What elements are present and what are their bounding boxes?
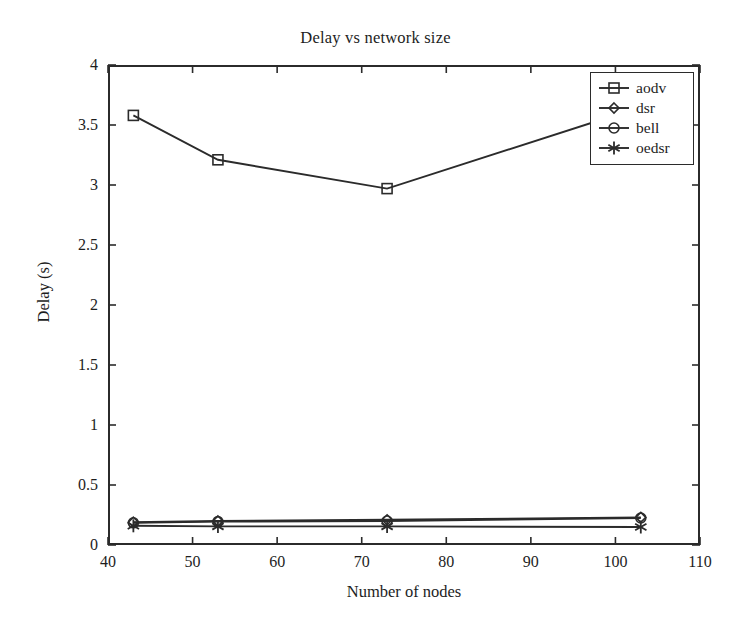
legend-label: bell bbox=[631, 120, 659, 136]
chart-legend: aodvdsrbelloedsr bbox=[590, 72, 694, 165]
x-axis-tick-labels: 405060708090100110 bbox=[108, 553, 700, 577]
x-tick-label: 110 bbox=[688, 553, 711, 571]
chart-title: Delay vs network size bbox=[0, 28, 751, 48]
y-tick-label: 2 bbox=[90, 296, 98, 314]
legend-marker-diamond-icon bbox=[597, 99, 631, 117]
legend-item-dsr[interactable]: dsr bbox=[597, 98, 687, 118]
legend-item-oedsr[interactable]: oedsr bbox=[597, 138, 687, 158]
legend-item-aodv[interactable]: aodv bbox=[597, 78, 687, 98]
y-tick-label: 0.5 bbox=[78, 476, 98, 494]
x-tick-label: 90 bbox=[523, 553, 539, 571]
legend-label: aodv bbox=[631, 80, 666, 96]
y-tick-label: 0 bbox=[90, 536, 98, 554]
x-tick-label: 40 bbox=[100, 553, 116, 571]
y-tick-label: 1 bbox=[90, 416, 98, 434]
x-tick-label: 70 bbox=[354, 553, 370, 571]
y-tick-label: 3 bbox=[90, 176, 98, 194]
legend-label: oedsr bbox=[631, 140, 670, 156]
data-series-lines bbox=[128, 102, 647, 534]
y-tick-label: 1.5 bbox=[78, 356, 98, 374]
y-tick-label: 3.5 bbox=[78, 116, 98, 134]
chart-figure: Delay vs network size Delay (s) 00.511.5… bbox=[0, 0, 751, 625]
y-tick-label: 4 bbox=[90, 56, 98, 74]
legend-label: dsr bbox=[631, 100, 655, 116]
x-tick-label: 50 bbox=[185, 553, 201, 571]
legend-marker-square-icon bbox=[597, 79, 631, 97]
x-axis-title: Number of nodes bbox=[108, 582, 700, 602]
legend-marker-asterisk-icon bbox=[597, 139, 631, 157]
x-tick-label: 60 bbox=[269, 553, 285, 571]
series-aodv bbox=[128, 102, 645, 194]
legend-item-bell[interactable]: bell bbox=[597, 118, 687, 138]
x-tick-label: 80 bbox=[438, 553, 454, 571]
x-tick-label: 100 bbox=[603, 553, 627, 571]
y-axis-tick-labels: 00.511.522.533.54 bbox=[40, 65, 98, 545]
y-tick-label: 2.5 bbox=[78, 236, 98, 254]
legend-marker-circle-icon bbox=[597, 119, 631, 137]
